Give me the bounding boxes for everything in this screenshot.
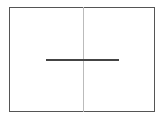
horizontal-segment-line [46,59,119,61]
